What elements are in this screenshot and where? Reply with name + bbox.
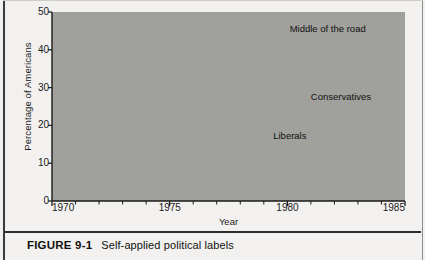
chart: Percentage of Americans 01020304050 Midd… — [5, 3, 420, 228]
y-axis-tick-label: 40 — [27, 45, 49, 55]
figure-container: Percentage of Americans 01020304050 Midd… — [0, 0, 425, 260]
y-axis-tick-label: 0 — [27, 196, 49, 206]
y-axis-tick-label: 50 — [27, 7, 49, 17]
x-axis-tick-labels: 1970197519801985 — [52, 203, 405, 217]
x-axis-tick-label: 1980 — [276, 203, 298, 213]
y-axis-tick-label: 20 — [27, 120, 49, 130]
y-axis-tick-label: 10 — [27, 158, 49, 168]
figure-caption: FIGURE 9-1 Self-applied political labels — [5, 232, 421, 258]
x-axis-tick-label: 1970 — [52, 203, 74, 213]
x-axis-title: Year — [52, 216, 405, 227]
figure-number: FIGURE 9-1 — [27, 239, 92, 251]
x-axis-tick-label: 1985 — [383, 203, 405, 213]
plot-background — [52, 12, 405, 201]
plot-area: Middle of the roadConservativesLiberals — [52, 12, 405, 201]
page-top-rule — [3, 0, 423, 1]
y-axis-tick-label: 30 — [27, 83, 49, 93]
figure-caption-text: Self-applied political labels — [101, 239, 234, 251]
series-label: Conservatives — [311, 92, 371, 102]
page-right-rule — [422, 0, 423, 260]
series-label: Middle of the road — [290, 24, 366, 34]
series-label: Liberals — [273, 131, 306, 141]
y-axis-tick-labels: 01020304050 — [23, 12, 49, 201]
x-axis-tick-label: 1975 — [159, 203, 181, 213]
